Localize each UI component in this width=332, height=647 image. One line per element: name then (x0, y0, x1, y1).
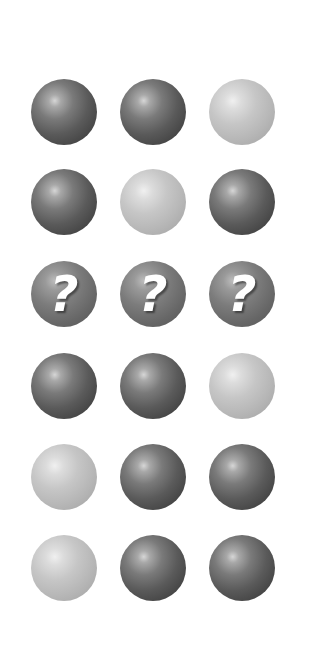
sphere-r5-c2 (120, 444, 186, 510)
question-sphere-r3-c1: ? (31, 261, 97, 327)
sphere-r5-c1 (31, 444, 97, 510)
sphere-r1-c1 (31, 79, 97, 145)
sphere-puzzle-grid: ? ? ? (0, 0, 332, 647)
sphere-r4-c3 (209, 353, 275, 419)
sphere-r6-c1 (31, 535, 97, 601)
sphere-r5-c3 (209, 444, 275, 510)
question-mark-icon: ? (209, 261, 275, 327)
sphere-r1-c3 (209, 79, 275, 145)
sphere-r6-c3 (209, 535, 275, 601)
sphere-r6-c2 (120, 535, 186, 601)
question-mark-icon: ? (31, 261, 97, 327)
question-mark-icon: ? (120, 261, 186, 327)
sphere-r2-c1 (31, 169, 97, 235)
sphere-r4-c2 (120, 353, 186, 419)
sphere-r4-c1 (31, 353, 97, 419)
sphere-r2-c2 (120, 169, 186, 235)
sphere-r1-c2 (120, 79, 186, 145)
question-sphere-r3-c2: ? (120, 261, 186, 327)
question-sphere-r3-c3: ? (209, 261, 275, 327)
sphere-r2-c3 (209, 169, 275, 235)
